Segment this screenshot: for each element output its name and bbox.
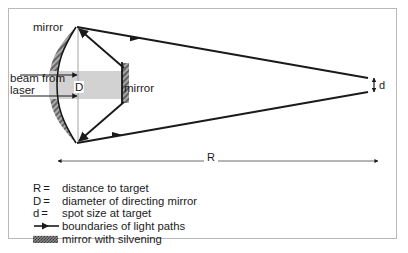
legend-equals-D: =: [43, 195, 50, 207]
mirror-hatch-swatch-icon: [33, 235, 58, 243]
label-range-R: R: [204, 152, 218, 164]
legend-label-light-paths: boundaries of light paths: [62, 220, 185, 232]
legend-row-light-paths: boundaries of light paths: [33, 220, 197, 233]
arrow-swatch-icon: [33, 221, 60, 231]
legend-key-light-paths: [33, 220, 62, 233]
figure-canvas: mirror mirror beam from laser D d R R = …: [0, 0, 408, 253]
legend-equals-R: =: [43, 182, 50, 194]
light-path-upper-boundary: [77, 27, 368, 78]
legend-row-R: R = distance to target: [33, 182, 197, 195]
legend-row-D: D = diameter of directing mirror: [33, 195, 197, 208]
label-directing-mirror: mirror: [124, 82, 154, 94]
legend-equals-d: =: [41, 207, 48, 219]
legend-symbol-d: d: [33, 207, 39, 219]
legend-symbol-D: D: [33, 195, 41, 207]
legend-key-D: D =: [33, 195, 62, 208]
label-beam-source: beam from laser: [10, 72, 65, 96]
label-beam-source-line2: laser: [10, 84, 65, 96]
light-path-lower-boundary: [77, 92, 368, 143]
legend: R = distance to target D = diameter of d…: [33, 182, 197, 245]
legend-label-mirror-silvening: mirror with silvening: [62, 233, 162, 245]
label-primary-mirror: mirror: [33, 21, 63, 33]
legend-key-mirror-silvening: [33, 232, 62, 245]
legend-label-R: distance to target: [62, 182, 149, 194]
legend-row-d: d = spot size at target: [33, 207, 197, 220]
legend-row-mirror-silvening: mirror with silvening: [33, 232, 197, 245]
legend-label-d: spot size at target: [62, 207, 151, 219]
label-spot-size-d: d: [379, 80, 385, 92]
label-beam-source-line1: beam from: [10, 72, 65, 84]
legend-symbol-R: R: [33, 182, 41, 194]
legend-key-d: d =: [33, 207, 62, 220]
label-diameter-D: D: [74, 81, 84, 93]
legend-key-R: R =: [33, 182, 62, 195]
legend-label-D: diameter of directing mirror: [62, 195, 197, 207]
